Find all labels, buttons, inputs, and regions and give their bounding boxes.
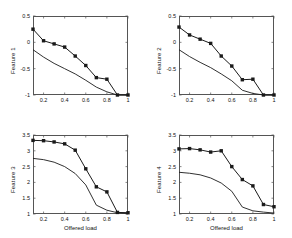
subplot-cell-2: 0.20.40.60.8111.522.533.5Feature 3Offere…	[0, 119, 146, 238]
series-line-2	[33, 50, 128, 95]
x-tick-label: 0.8	[249, 216, 257, 222]
subplot-3: 0.20.40.60.8111.522.533.5Feature 3Offere…	[0, 119, 146, 238]
data-point-marker	[241, 178, 244, 181]
subplot-cell-3: 0.20.40.60.8111.522.533.5Feature 4Offere…	[146, 119, 292, 238]
data-point-marker	[177, 25, 180, 28]
data-point-marker	[241, 78, 244, 81]
data-point-marker	[230, 64, 233, 67]
y-tick-label: 0.5	[146, 13, 176, 19]
series-line-1	[33, 29, 128, 95]
subplot-2: 0.20.40.60.81-1-0.500.5Feature 2	[146, 0, 292, 119]
data-point-marker	[52, 140, 55, 143]
data-point-marker	[198, 148, 201, 151]
y-axis-label: Feature 1	[10, 47, 16, 74]
x-tick-label: 1	[126, 216, 129, 222]
y-tick-label: 0.5	[0, 13, 30, 19]
x-tick-label: 0.6	[228, 97, 236, 103]
data-point-marker	[188, 33, 191, 36]
y-axis-label: Feature 3	[10, 166, 16, 193]
data-point-marker	[177, 147, 180, 150]
y-axis-label: Feature 4	[156, 166, 162, 193]
data-point-marker	[42, 39, 45, 42]
y-tick-label: 1	[0, 211, 30, 217]
y-tick-label: 1.5	[0, 195, 30, 201]
subplot-4: 0.20.40.60.8111.522.533.5Feature 4Offere…	[146, 119, 292, 238]
x-tick-label: 0.2	[40, 97, 48, 103]
data-point-marker	[63, 45, 66, 48]
x-axis-label: Offered load	[179, 225, 274, 231]
data-point-marker	[262, 203, 265, 206]
series-line-1	[179, 149, 274, 207]
x-tick-label: 0.2	[186, 97, 194, 103]
x-tick-label: 0.6	[82, 216, 90, 222]
x-tick-label: 0.8	[103, 97, 111, 103]
y-tick-label: 1.5	[146, 195, 176, 201]
subplot-cell-0: 0.20.40.60.81-1-0.500.5Feature 1	[0, 0, 146, 119]
x-axis-label: Offered load	[33, 225, 128, 231]
data-point-marker	[95, 76, 98, 79]
series-line-2	[179, 50, 274, 95]
x-tick-label: 0.4	[207, 216, 215, 222]
data-point-marker	[42, 139, 45, 142]
data-point-marker	[63, 142, 66, 145]
y-tick-label: 0	[146, 39, 176, 45]
y-tick-label: 3	[0, 148, 30, 154]
x-tick-label: 0.2	[40, 216, 48, 222]
data-point-marker	[220, 54, 223, 57]
data-point-marker	[52, 42, 55, 45]
x-tick-label: 0.4	[207, 97, 215, 103]
data-point-marker	[95, 185, 98, 188]
data-point-marker	[105, 190, 108, 193]
y-axis-label: Feature 2	[156, 47, 162, 74]
x-tick-label: 1	[272, 216, 275, 222]
data-point-marker	[272, 205, 275, 208]
x-tick-label: 0.2	[186, 216, 194, 222]
x-tick-label: 1	[272, 97, 275, 103]
data-point-marker	[220, 149, 223, 152]
y-tick-label: 0	[0, 39, 30, 45]
series-line-1	[33, 140, 128, 212]
figure-canvas: 0.20.40.60.81-1-0.500.5Feature 1 0.20.40…	[0, 0, 292, 238]
data-point-marker	[84, 167, 87, 170]
subplot-1: 0.20.40.60.81-1-0.500.5Feature 1	[0, 0, 146, 119]
data-point-marker	[126, 211, 129, 214]
y-tick-label: -1	[146, 92, 176, 98]
x-tick-label: 0.6	[82, 97, 90, 103]
data-point-marker	[209, 150, 212, 153]
subplot-cell-1: 0.20.40.60.81-1-0.500.5Feature 2	[146, 0, 292, 119]
data-point-marker	[251, 184, 254, 187]
y-tick-label: 3.5	[146, 132, 176, 138]
x-tick-label: 1	[126, 97, 129, 103]
data-point-marker	[198, 37, 201, 40]
x-tick-label: 0.6	[228, 216, 236, 222]
y-tick-label: -1	[0, 92, 30, 98]
series-line-2	[179, 172, 274, 213]
series-line-1	[179, 27, 274, 95]
data-point-marker	[74, 54, 77, 57]
data-point-marker	[31, 27, 34, 30]
data-point-marker	[84, 64, 87, 67]
y-tick-label: 1	[146, 211, 176, 217]
x-tick-label: 0.8	[103, 216, 111, 222]
y-tick-label: 3.5	[0, 132, 30, 138]
x-tick-label: 0.4	[61, 216, 69, 222]
data-point-marker	[74, 148, 77, 151]
data-point-marker	[105, 78, 108, 81]
x-tick-label: 0.4	[61, 97, 69, 103]
data-point-marker	[188, 147, 191, 150]
x-tick-label: 0.8	[249, 97, 257, 103]
y-tick-label: 3	[146, 148, 176, 154]
data-point-marker	[251, 78, 254, 81]
data-point-marker	[31, 139, 34, 142]
data-point-marker	[230, 165, 233, 168]
data-point-marker	[209, 42, 212, 45]
